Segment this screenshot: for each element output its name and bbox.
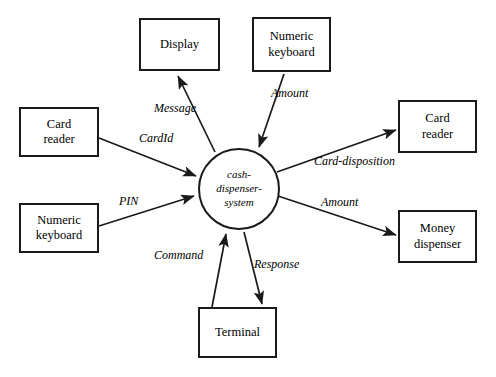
flow-line-command <box>212 234 226 307</box>
flow-line-pin <box>99 196 194 226</box>
entity-terminal[interactable]: Terminal <box>198 307 277 358</box>
entity-numeric-keyboard-top[interactable]: Numeric keyboard <box>252 17 331 72</box>
entity-money-dispenser[interactable]: Money dispenser <box>398 210 477 263</box>
flow-label-command-text: Command <box>154 248 203 262</box>
entity-card-reader-left-label: Card reader <box>40 117 77 148</box>
flow-label-message: Message <box>154 101 196 116</box>
entity-numeric-keyboard-left[interactable]: Numeric keyboard <box>19 203 99 253</box>
entity-money-dispenser-label: Money dispenser <box>411 221 464 252</box>
flow-label-cardid: CardId <box>139 131 173 146</box>
entity-display-label: Display <box>157 37 202 52</box>
flow-label-amount-in: Amount <box>271 86 308 101</box>
flow-label-pin: PIN <box>119 194 138 209</box>
entity-numeric-keyboard-top-label: Numeric keyboard <box>265 29 318 60</box>
entity-card-reader-right-label: Card reader <box>419 111 456 142</box>
flow-label-command: Command <box>154 248 203 263</box>
flow-label-card-disposition-text: Card-disposition <box>314 154 395 168</box>
flow-label-response: Response <box>254 257 299 272</box>
entity-display[interactable]: Display <box>139 18 220 71</box>
diagram-canvas: Display Numeric keyboard Card reader Num… <box>0 0 496 377</box>
flow-label-amount-in-text: Amount <box>271 86 308 100</box>
flow-label-cardid-text: CardId <box>139 131 173 145</box>
flow-label-amount-out-text: Amount <box>321 195 358 209</box>
entity-card-reader-right[interactable]: Card reader <box>398 100 477 153</box>
flow-label-amount-out: Amount <box>321 195 358 210</box>
process-cash-dispenser-system[interactable]: cash- dispenser- system <box>198 148 280 230</box>
flow-label-message-text: Message <box>154 101 196 115</box>
flow-label-card-disposition: Card-disposition <box>314 154 395 169</box>
process-label: cash- dispenser- system <box>216 168 262 209</box>
entity-numeric-keyboard-left-label: Numeric keyboard <box>33 213 86 244</box>
flow-label-pin-text: PIN <box>119 194 138 208</box>
flow-label-response-text: Response <box>254 257 299 271</box>
entity-terminal-label: Terminal <box>212 325 263 340</box>
flow-line-amount-in <box>259 74 284 147</box>
entity-card-reader-left[interactable]: Card reader <box>19 107 99 157</box>
